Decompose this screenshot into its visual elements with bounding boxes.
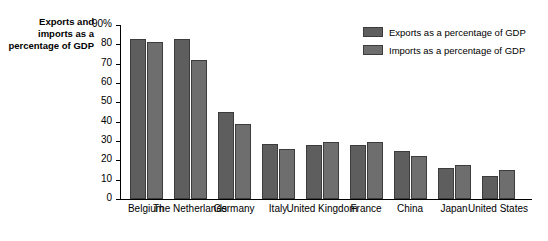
bar bbox=[499, 170, 515, 199]
y-tick-label: 0 bbox=[106, 192, 112, 203]
bar bbox=[455, 165, 471, 199]
bar bbox=[394, 151, 410, 199]
bar bbox=[130, 39, 146, 199]
y-tick-mark bbox=[116, 83, 120, 84]
y-tick-mark bbox=[116, 102, 120, 103]
x-axis-label: United States bbox=[461, 203, 535, 215]
bar bbox=[174, 39, 190, 199]
y-tick-mark bbox=[116, 141, 120, 142]
bar bbox=[350, 145, 366, 199]
bar bbox=[235, 124, 251, 199]
y-tick-label: 30 bbox=[101, 134, 112, 145]
y-tick-label: 60 bbox=[101, 76, 112, 87]
bar-group bbox=[306, 25, 339, 199]
y-tick-label: 40 bbox=[101, 115, 112, 126]
y-tick: 90% bbox=[76, 25, 120, 26]
legend-label: Exports as a percentage of GDP bbox=[389, 27, 526, 38]
y-tick-label: 10 bbox=[101, 173, 112, 184]
bar bbox=[482, 176, 498, 199]
bar-group bbox=[262, 25, 295, 199]
bar-chart: Exports and imports as a percentage of G… bbox=[0, 0, 548, 241]
y-tick-label: 70 bbox=[101, 57, 112, 68]
bar bbox=[218, 112, 234, 199]
legend-item: Imports as a percentage of GDP bbox=[363, 42, 543, 58]
x-axis-line bbox=[120, 199, 532, 200]
legend-swatch bbox=[363, 27, 383, 37]
y-tick-mark bbox=[116, 180, 120, 181]
bar bbox=[279, 149, 295, 199]
y-tick-label: 20 bbox=[101, 153, 112, 164]
bar bbox=[147, 42, 163, 199]
bar bbox=[411, 156, 427, 200]
y-tick-mark bbox=[116, 64, 120, 65]
legend-label: Imports as a percentage of GDP bbox=[389, 45, 525, 56]
legend-item: Exports as a percentage of GDP bbox=[363, 24, 543, 40]
y-tick: 30 bbox=[76, 141, 120, 142]
y-tick: 20 bbox=[76, 160, 120, 161]
bar-group bbox=[174, 25, 207, 199]
y-tick: 0 bbox=[76, 199, 120, 200]
y-tick: 70 bbox=[76, 64, 120, 65]
y-tick-mark bbox=[116, 44, 120, 45]
chart-legend: Exports as a percentage of GDPImports as… bbox=[363, 24, 543, 60]
y-tick: 10 bbox=[76, 180, 120, 181]
bar-group bbox=[130, 25, 163, 199]
y-tick-label: 80 bbox=[101, 37, 112, 48]
bar-group bbox=[218, 25, 251, 199]
y-tick-label: 90% bbox=[92, 18, 112, 29]
bar bbox=[367, 142, 383, 199]
bar bbox=[323, 142, 339, 199]
bar bbox=[191, 60, 207, 199]
bar bbox=[306, 145, 322, 199]
bar bbox=[438, 168, 454, 199]
y-tick-mark bbox=[116, 199, 120, 200]
legend-swatch bbox=[363, 45, 383, 55]
y-tick: 80 bbox=[76, 44, 120, 45]
y-tick-mark bbox=[116, 122, 120, 123]
y-axis-line bbox=[120, 25, 121, 200]
y-tick: 50 bbox=[76, 102, 120, 103]
bar bbox=[262, 144, 278, 199]
y-tick-mark bbox=[116, 160, 120, 161]
y-axis-title: Exports and imports as a percentage of G… bbox=[2, 16, 94, 52]
y-tick-label: 50 bbox=[101, 95, 112, 106]
y-tick: 60 bbox=[76, 83, 120, 84]
y-tick: 40 bbox=[76, 122, 120, 123]
y-tick-mark bbox=[116, 25, 120, 26]
